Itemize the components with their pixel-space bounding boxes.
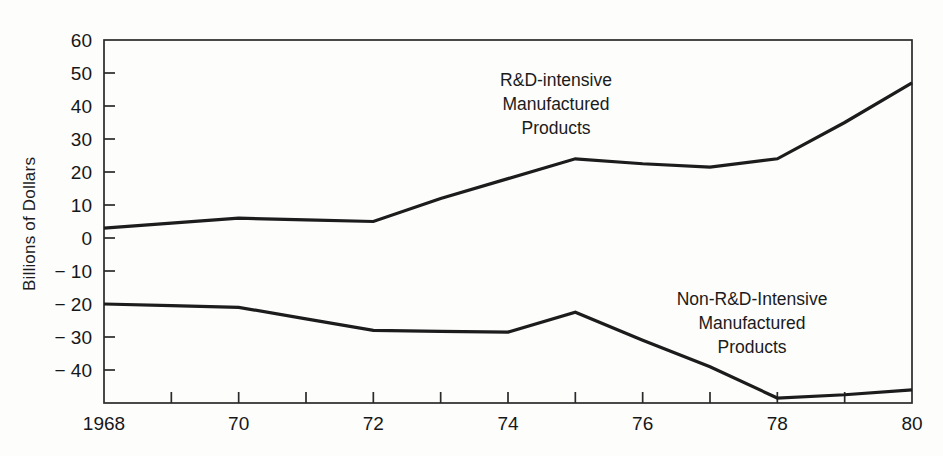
series-label-non-rd-intensive: Non-R&D-Intensive Manufactured Products xyxy=(677,287,828,359)
y-axis-tick-label: − 20 xyxy=(54,294,92,315)
y-axis-tick-label: 10 xyxy=(71,195,92,216)
y-axis-tick-marks xyxy=(104,73,115,370)
y-axis-tick-label: 0 xyxy=(81,228,92,249)
chart-figure: Billions of Dollars 6050403020100− 10− 2… xyxy=(0,0,943,456)
x-axis-tick-label: 78 xyxy=(767,413,788,434)
y-axis-tick-label: 30 xyxy=(71,129,92,150)
x-axis-tick-label: 72 xyxy=(363,413,384,434)
series-label-line: R&D-intensive xyxy=(500,68,612,92)
series-label-line: Manufactured xyxy=(677,311,828,335)
y-axis-tick-label: − 30 xyxy=(54,327,92,348)
x-axis-tick-label: 74 xyxy=(497,413,519,434)
x-axis-tick-labels: 1968707274767880 xyxy=(83,413,923,434)
series-label-line: Products xyxy=(500,116,612,140)
x-axis-tick-label: 1968 xyxy=(83,413,125,434)
series-label-line: Manufactured xyxy=(500,92,612,116)
y-axis-tick-label: 50 xyxy=(71,63,92,84)
series-label-rd-intensive: R&D-intensive Manufactured Products xyxy=(500,68,612,140)
x-axis-tick-label: 70 xyxy=(228,413,249,434)
y-axis-tick-label: − 40 xyxy=(54,360,92,381)
series-label-line: Products xyxy=(677,335,828,359)
y-axis-tick-label: 40 xyxy=(71,96,92,117)
y-axis-tick-label: − 10 xyxy=(54,261,92,282)
y-axis-tick-label: 60 xyxy=(71,30,92,51)
series-label-line: Non-R&D-Intensive xyxy=(677,287,828,311)
y-axis-tick-labels: 6050403020100− 10− 20− 30− 40 xyxy=(54,30,92,381)
x-axis-tick-label: 80 xyxy=(901,413,922,434)
x-axis-tick-label: 76 xyxy=(632,413,653,434)
x-axis-tick-marks xyxy=(171,392,844,403)
chart-plot-area: 6050403020100− 10− 20− 30− 40 1968707274… xyxy=(0,0,943,456)
y-axis-tick-label: 20 xyxy=(71,162,92,183)
